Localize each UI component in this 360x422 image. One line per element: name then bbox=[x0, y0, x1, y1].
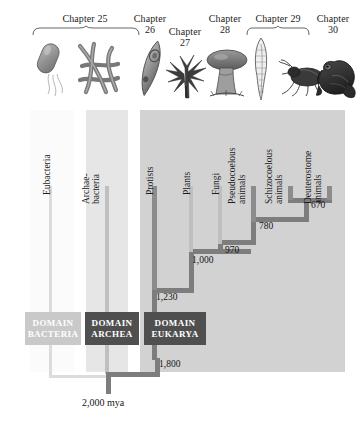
taxon-label-eubacteria: Eubacteria bbox=[42, 154, 52, 195]
domain-box-eukarya: DOMAIN EUKARYA bbox=[144, 312, 206, 345]
branch-schizocoelous-stem bbox=[288, 186, 293, 200]
branch-eubacteria-stem bbox=[49, 186, 52, 378]
branch-node780-to-node670 bbox=[304, 201, 309, 221]
branch-root-stem bbox=[106, 375, 111, 394]
node-age-970: 970 bbox=[225, 245, 239, 255]
node-age-1800: 1,800 bbox=[159, 359, 180, 369]
node-age-670: 670 bbox=[311, 200, 325, 210]
branch-eubacteria-to-root bbox=[49, 375, 109, 378]
organism-mushroom bbox=[206, 44, 248, 100]
domain-bacteria-line1: DOMAIN bbox=[33, 318, 74, 329]
branch-protists-stem bbox=[152, 186, 157, 290]
taxon-label-protists: Protists bbox=[145, 166, 155, 195]
taxon-label-pseudocoelous: Pseudocoelous animals bbox=[228, 148, 247, 204]
organism-frog bbox=[314, 54, 358, 100]
organism-fern-plant bbox=[164, 52, 208, 100]
phylogenetic-tree-figure: Chapter 25 Chapter 26 Chapter 27 Chapter… bbox=[0, 0, 360, 422]
node-age-780: 780 bbox=[259, 221, 273, 231]
taxon-label-plants: Plants bbox=[182, 172, 192, 195]
root-age-label: 2,000 mya bbox=[82, 397, 124, 408]
taxon-label-deuterostome: Deuterostome animals bbox=[304, 151, 323, 204]
domain-box-archaea: DOMAIN ARCHEA bbox=[85, 312, 139, 345]
organism-nematode bbox=[250, 36, 272, 102]
branch-node970-to-node780 bbox=[251, 220, 256, 244]
organism-protist bbox=[134, 38, 166, 100]
branch-deuterostome-stem bbox=[327, 186, 332, 200]
branch-archaebacteria-stem bbox=[105, 186, 109, 374]
node-age-1230: 1,230 bbox=[156, 292, 177, 302]
taxon-label-schizocoelous: Schizocoelous animals bbox=[265, 149, 284, 204]
bracket-chapter-25 bbox=[32, 26, 140, 36]
branch-plants-stem bbox=[189, 186, 193, 252]
domain-eukarya-line1: DOMAIN bbox=[155, 318, 196, 329]
branch-root-crossbar bbox=[106, 372, 160, 377]
bracket-chapter-29 bbox=[246, 26, 310, 36]
taxon-label-archaebacteria: Archae- bacteria bbox=[82, 173, 101, 204]
domain-box-bacteria: DOMAIN BACTERIA bbox=[25, 312, 81, 345]
domain-archaea-line2: ARCHEA bbox=[91, 329, 132, 340]
domain-archaea-line1: DOMAIN bbox=[92, 318, 133, 329]
chapter-label-30: Chapter 30 bbox=[308, 13, 358, 35]
chapter-label-29: Chapter 29 bbox=[243, 13, 313, 24]
organism-bacillus bbox=[34, 42, 74, 98]
node-age-1000: 1,000 bbox=[192, 255, 213, 265]
taxon-label-fungi: Fungi bbox=[211, 173, 221, 195]
domain-bacteria-line2: BACTERIA bbox=[28, 329, 79, 340]
domain-eukarya-line2: EUKARYA bbox=[151, 329, 198, 340]
branch-pseudocoelous-stem bbox=[251, 186, 256, 222]
organism-filamentous-bacteria bbox=[76, 40, 122, 98]
